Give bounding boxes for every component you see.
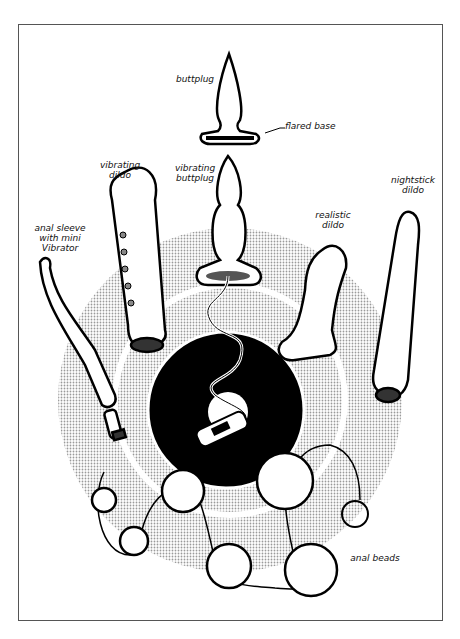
flared-base-pointer — [265, 128, 285, 133]
label-anal-sleeve: anal sleeve with mini Vibrator — [30, 223, 90, 253]
label-anal-beads: anal beads — [345, 553, 405, 563]
label-buttplug: buttplug — [170, 74, 220, 84]
label-realistic-dildo: realistic dildo — [313, 210, 353, 230]
label-vibrating-buttplug: vibrating buttplug — [170, 163, 220, 183]
label-flared-base: flared base — [285, 121, 355, 131]
illustration — [0, 0, 460, 639]
label-vibrating-dildo: vibrating dildo — [92, 160, 148, 180]
nightstick-dildo-drawing — [373, 212, 419, 402]
label-nightstick-dildo: nightstick dildo — [388, 175, 438, 195]
buttplug-drawing — [201, 54, 259, 144]
